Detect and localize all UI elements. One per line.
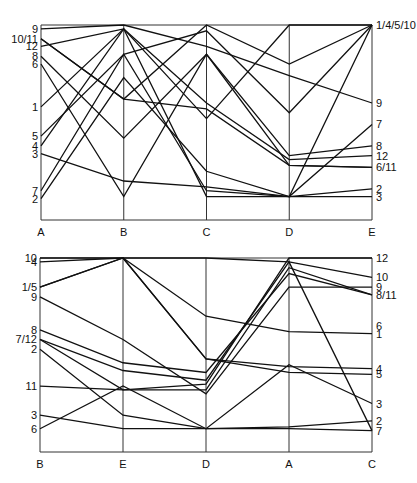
right-series-label: 6/11 [376,161,397,173]
left-series-label: 6 [32,58,38,70]
left-series-label: 1 [32,101,38,113]
axis-label: B [120,226,127,238]
right-series-label: 12 [376,150,388,162]
left-series-label: 2 [32,193,38,205]
left-series-label: 3 [32,148,38,160]
axis-label: D [202,458,210,470]
top-parallel-chart: ABCDE910/1112861543721/4/5/10978126/1123 [11,19,415,238]
left-series-label: 6 [31,423,37,435]
left-series-label: 3 [31,409,37,421]
right-series-label: 3 [376,191,382,203]
parallel-coordinates-figure: ABCDE910/1112861543721/4/5/10978126/1123… [0,0,417,483]
axis-label: D [285,226,293,238]
bottom-parallel-chart: BEDAC1041/5987/1221136121098/116145327 [16,252,397,470]
left-series-label: 2 [31,343,37,355]
right-series-label: 9 [376,97,382,109]
right-series-label: 1 [376,328,382,340]
right-series-label: 3 [376,398,382,410]
right-series-label: 12 [376,252,388,264]
left-series-label: 9 [31,291,37,303]
axis-label: C [203,226,211,238]
left-series-label: 4 [31,256,37,268]
right-series-label: 7 [376,425,382,437]
right-series-label: 5 [376,368,382,380]
axis-label: E [119,458,126,470]
axis-label: E [368,226,375,238]
right-series-label: 7 [376,118,382,130]
axis-label: A [285,458,293,470]
axis-label: A [37,226,45,238]
axis-label: C [368,458,376,470]
right-series-label: 8/11 [376,289,397,301]
right-series-label: 1/4/5/10 [376,19,416,31]
axis-label: B [36,458,43,470]
left-series-label: 11 [26,380,37,392]
